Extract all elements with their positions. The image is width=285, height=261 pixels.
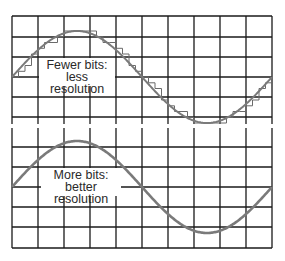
label-fewer-bits: Fewer bits: less resolution xyxy=(39,58,115,86)
label-more-bits: More bits: better resolution xyxy=(41,168,121,196)
label-more-bits-line2: better resolution xyxy=(41,181,121,205)
adc-resolution-diagram xyxy=(0,0,285,261)
label-fewer-bits-line2: less resolution xyxy=(39,71,115,95)
